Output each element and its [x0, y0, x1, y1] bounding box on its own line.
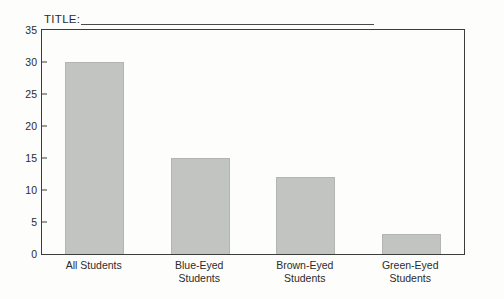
chart-plot-area: 05101520253035 — [42, 30, 464, 254]
title-label: TITLE: — [44, 13, 80, 26]
y-axis-tick-mark — [42, 158, 47, 159]
y-axis-tick-label: 0 — [31, 248, 37, 260]
y-axis-tick-mark — [42, 222, 47, 223]
chart-plot-frame: 05101520253035 — [41, 29, 465, 255]
title-row: TITLE: — [44, 8, 374, 26]
y-axis-tick-label: 35 — [25, 24, 37, 36]
y-axis-tick-label: 5 — [31, 216, 37, 228]
y-axis-tick-mark — [42, 94, 47, 95]
y-axis-tick-label: 15 — [25, 152, 37, 164]
chart-bar — [276, 177, 335, 254]
y-axis-tick-label: 25 — [25, 88, 37, 100]
chart-bar — [382, 234, 441, 254]
y-axis-tick-label: 10 — [25, 184, 37, 196]
chart-bar — [65, 62, 124, 254]
chart-bar — [171, 158, 230, 254]
y-axis-tick-mark — [42, 190, 47, 191]
y-axis-tick-label: 20 — [25, 120, 37, 132]
y-axis-tick-label: 30 — [25, 56, 37, 68]
y-axis-tick-mark — [42, 62, 47, 63]
x-axis-category-label: Brown-Eyed Students — [252, 259, 358, 285]
y-axis-tick-mark — [42, 126, 47, 127]
x-axis-category-label: Blue-Eyed Students — [147, 259, 253, 285]
worksheet-page: TITLE: 05101520253035 All StudentsBlue-E… — [0, 0, 504, 299]
x-axis-category-label: All Students — [41, 259, 147, 272]
title-write-in-line[interactable] — [81, 24, 374, 25]
x-axis-category-label: Green-Eyed Students — [358, 259, 464, 285]
